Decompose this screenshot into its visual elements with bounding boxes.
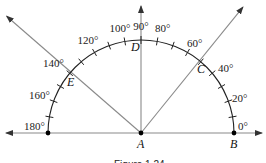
tick-150 — [57, 85, 64, 89]
point-label-e: E — [66, 75, 75, 89]
tick-120 — [93, 49, 97, 56]
tick-170 — [45, 116, 53, 117]
degree-label-160: 160° — [29, 89, 50, 101]
figure-caption: Figure 1.24 — [114, 159, 165, 163]
point-label-c: C — [197, 62, 206, 76]
point-label-b: B — [230, 137, 238, 151]
degree-label-0: 0° — [238, 120, 248, 132]
degree-label-180: 180° — [24, 120, 45, 132]
degree-label-140: 140° — [43, 57, 64, 69]
degree-label-100: 100° — [110, 22, 131, 34]
tick-30 — [218, 85, 225, 89]
protractor-diagram: 0°20°40°60°80°90°100°120°140°160°180° A … — [0, 0, 266, 163]
tick-10 — [229, 116, 237, 117]
degree-label-20: 20° — [232, 92, 247, 104]
degree-label-80: 80° — [155, 22, 170, 34]
tick-80 — [156, 37, 157, 45]
degree-label-90: 90° — [133, 20, 148, 32]
point-b-dot — [232, 131, 237, 136]
point-label-d: D — [130, 40, 140, 54]
point-label-a: A — [136, 137, 145, 151]
tick-100 — [124, 37, 125, 45]
degree-label-120: 120° — [78, 34, 99, 46]
tick-60 — [186, 49, 190, 56]
point-left-dot — [46, 131, 51, 136]
point-a-dot — [139, 131, 144, 136]
degree-label-40: 40° — [218, 62, 233, 74]
degree-label-60: 60° — [187, 37, 202, 49]
